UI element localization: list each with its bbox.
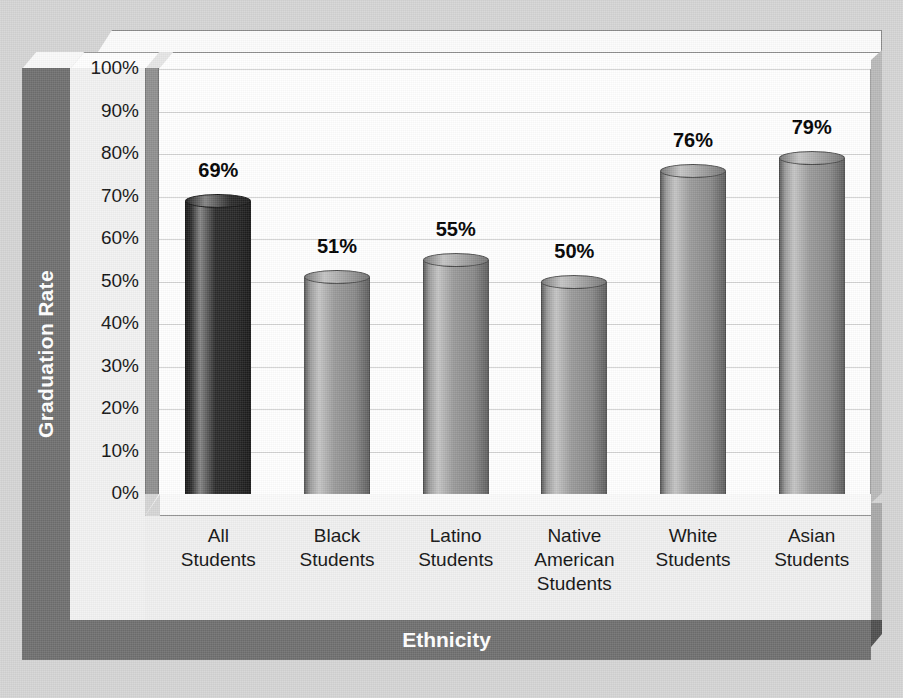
bar-cylinder bbox=[304, 277, 370, 494]
bar-value-label: 76% bbox=[633, 129, 753, 152]
y-axis-tick-label: 20% bbox=[101, 397, 139, 419]
gridline bbox=[159, 324, 870, 325]
x-axis-category-label: Latino Students bbox=[396, 524, 515, 572]
y-axis-tick-label: 80% bbox=[101, 142, 139, 164]
x-axis-category-label: Asian Students bbox=[752, 524, 871, 572]
plot-right-wall bbox=[871, 50, 882, 503]
gridline bbox=[159, 409, 870, 410]
bar-body bbox=[185, 201, 251, 494]
y-axis-tick-label: 30% bbox=[101, 355, 139, 377]
plot-floor bbox=[145, 494, 871, 516]
bar-body bbox=[779, 158, 845, 494]
bar-value-label: 55% bbox=[396, 218, 516, 241]
y-axis-tick-label: 60% bbox=[101, 227, 139, 249]
x-axis-category-label: Black Students bbox=[278, 524, 397, 572]
y-axis-title: Graduation Rate bbox=[22, 68, 70, 640]
x-axis-title: Ethnicity bbox=[22, 620, 871, 660]
bar-value-label: 79% bbox=[752, 116, 872, 139]
plot-area: 69%51%55%50%76%79% bbox=[159, 69, 871, 494]
bar-value-label: 51% bbox=[277, 235, 397, 258]
x-axis-category-label: Native American Students bbox=[515, 524, 634, 596]
bar-cylinder bbox=[660, 171, 726, 494]
y-axis-tick-label: 10% bbox=[101, 440, 139, 462]
bar-value-label: 50% bbox=[514, 240, 634, 263]
y-axis-tick-label: 50% bbox=[101, 270, 139, 292]
x-axis-category-label: All Students bbox=[159, 524, 278, 572]
y-axis-tick-label: 0% bbox=[112, 482, 139, 504]
bar-body bbox=[423, 260, 489, 494]
chart-top-slab-face bbox=[84, 52, 882, 70]
y-axis-tick-label: 90% bbox=[101, 100, 139, 122]
bar-chart: Graduation Rate 100%90%80%70%60%50%40%30… bbox=[22, 22, 882, 660]
bar-body bbox=[304, 277, 370, 494]
category-strip-right-wall bbox=[871, 503, 882, 620]
x-axis-band-bevel bbox=[871, 620, 882, 647]
gridline bbox=[159, 367, 870, 368]
category-label-strip: All StudentsBlack StudentsLatino Student… bbox=[145, 516, 882, 620]
gridline bbox=[159, 452, 870, 453]
bar-cylinder bbox=[423, 260, 489, 494]
y-tick-panel: 100%90%80%70%60%50%40%30%20%10%0% bbox=[70, 68, 145, 640]
y-axis-tick-label: 100% bbox=[90, 57, 139, 79]
gridline bbox=[159, 282, 870, 283]
bar-top-cap bbox=[660, 164, 726, 178]
bar-cylinder bbox=[779, 158, 845, 494]
gridline bbox=[159, 197, 870, 198]
bar-value-label: 69% bbox=[158, 159, 278, 182]
gridline bbox=[159, 69, 870, 70]
x-axis-category-label: White Students bbox=[634, 524, 753, 572]
bar-top-cap bbox=[185, 194, 251, 208]
bar-body bbox=[541, 282, 607, 495]
y-axis-tick-label: 70% bbox=[101, 185, 139, 207]
bar-cylinder bbox=[185, 201, 251, 494]
bar-body bbox=[660, 171, 726, 494]
bar-cylinder bbox=[541, 282, 607, 495]
gridline bbox=[159, 154, 870, 155]
y-axis-wall bbox=[145, 68, 159, 494]
y-axis-tick-label: 40% bbox=[101, 312, 139, 334]
bar-top-cap bbox=[541, 275, 607, 289]
gridline bbox=[159, 112, 870, 113]
